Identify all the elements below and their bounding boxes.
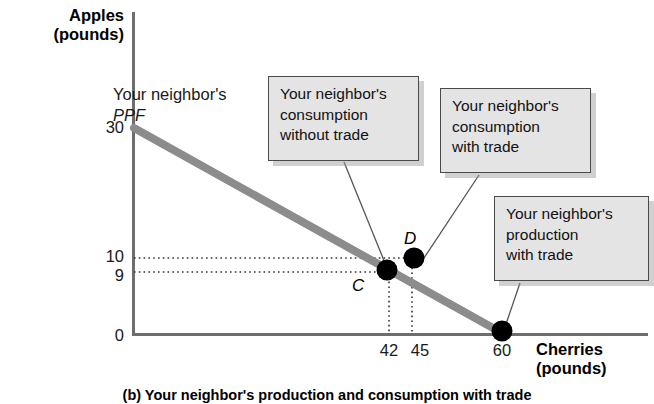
x-axis-title: Cherries (pounds) (536, 340, 652, 378)
x-axis-unit-text: (pounds) (536, 359, 652, 378)
callout-without-trade-line3: without trade (280, 125, 408, 146)
y-axis-title-text: Apples (69, 6, 124, 24)
callout-production-with-trade: Your neighbor's production with trade (494, 196, 649, 281)
point-production-marker (492, 321, 513, 342)
callout-without-trade-line1: Your neighbor's (280, 84, 408, 105)
x-tick-label-45: 45 (400, 341, 440, 360)
callout-consumption-with-trade: Your neighbor's consumption with trade (440, 88, 591, 173)
y-tick-label-9: 9 (84, 266, 124, 285)
callout-with-trade-line2: consumption (452, 117, 580, 138)
callout-with-trade-line3: with trade (452, 137, 580, 158)
callout-production-line3: with trade (506, 245, 638, 266)
ppf-curve-label: Your neighbor's PPF (113, 84, 227, 126)
y-tick-label-0: 0 (84, 326, 124, 345)
leader-line-with-trade (424, 175, 479, 258)
x-tick-label-60: 60 (482, 341, 522, 360)
y-tick-label-10: 10 (84, 247, 124, 266)
point-d-marker (404, 248, 425, 269)
ppf-curve-label-line1: Your neighbor's (113, 85, 227, 103)
point-c-marker (377, 260, 398, 281)
x-axis-title-text: Cherries (536, 340, 603, 358)
point-d-label: D (404, 229, 416, 249)
figure-caption: (b) Your neighbor's production and consu… (0, 387, 654, 403)
point-c-label: C (352, 276, 364, 296)
callout-consumption-without-trade: Your neighbor's consumption without trad… (268, 76, 419, 161)
y-axis-title: Apples (pounds) (6, 6, 124, 44)
figure-ppf-neighbor-trade: Apples (pounds) Cherries (pounds) 30 10 … (0, 0, 654, 404)
callout-production-line2: production (506, 225, 638, 246)
callout-without-trade-line2: consumption (280, 105, 408, 126)
y-axis-unit-text: (pounds) (6, 25, 124, 44)
callout-production-line1: Your neighbor's (506, 204, 638, 225)
ppf-curve-label-line2: PPF (113, 105, 227, 126)
callout-with-trade-line1: Your neighbor's (452, 96, 580, 117)
